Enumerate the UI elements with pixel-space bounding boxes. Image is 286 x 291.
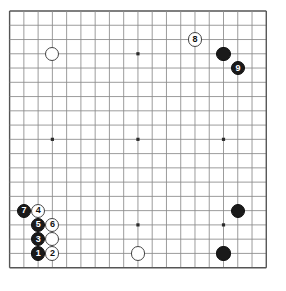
stone-black-upper-right[interactable] (216, 47, 230, 61)
stone-black-right-side[interactable] (231, 204, 245, 218)
stone-black-move-7[interactable]: 7 (17, 204, 31, 218)
star-point (222, 138, 225, 141)
move-number-label: 7 (21, 206, 26, 215)
stone-white-move-8[interactable]: 8 (188, 32, 202, 46)
star-point (136, 138, 139, 141)
stone-white-move-4[interactable]: 4 (31, 204, 45, 218)
move-number-label: 9 (235, 63, 240, 72)
stone-white-move-2[interactable]: 2 (45, 246, 59, 260)
star-point (51, 138, 54, 141)
go-board-diagram: 897456312 (0, 0, 286, 291)
move-number-label: 2 (50, 249, 55, 258)
move-number-label: 4 (36, 206, 41, 215)
star-point (136, 223, 139, 226)
stone-black-move-1[interactable]: 1 (31, 246, 45, 260)
move-number-label: 6 (50, 220, 55, 229)
star-point (222, 223, 225, 226)
move-number-label: 3 (36, 234, 41, 243)
stone-black-lower-right[interactable] (216, 246, 230, 260)
stone-white-lower-center[interactable] (131, 246, 145, 260)
star-point (136, 52, 139, 55)
stone-black-move-9[interactable]: 9 (231, 61, 245, 75)
move-number-label: 5 (36, 220, 41, 229)
move-number-label: 8 (193, 35, 198, 44)
move-number-label: 1 (36, 249, 41, 258)
